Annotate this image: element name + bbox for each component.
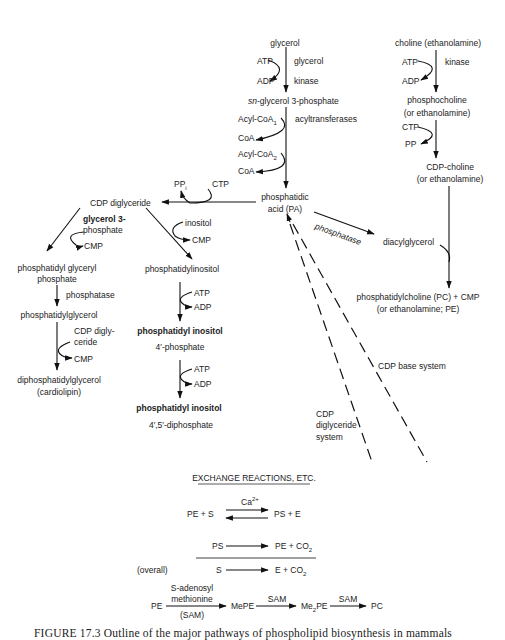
phosphatidylinositol-node: phosphatidylinositol [145,264,219,274]
atp-cofactor: ATP [257,56,273,66]
g3p-label: -glycerol 3-phosphate [257,96,339,106]
co2-sub: 2 [309,547,312,553]
glycerol-3-phosphate-line1: glycerol 3- [83,214,126,224]
cmp-1: CMP [84,241,103,251]
cdp-diglyceride-system-line3: system [316,432,343,442]
choline-pp: PP [405,139,416,149]
phosphatidylcholine-line1: phosphatidylcholine (PC) + CMP [356,292,479,302]
inositol-cofactor: inositol [185,218,211,228]
acyltransferases-label: acyltransferases [295,114,357,124]
acyl-coa-2-label: Acyl-CoA [238,149,273,159]
glycerol-3-phosphate-line2: phosphate [83,225,123,235]
acyl-coa-2: Acyl-CoA2 [238,149,277,163]
pip-line1: phosphatidyl inositol [137,326,222,336]
adp-cofactor: ADP [257,76,274,86]
cdp-diglyceride-in-line2: ceride [74,337,97,347]
figure-caption: FIGURE 17.3 Outline of the major pathway… [34,627,452,639]
calcium-charge: 2+ [252,496,259,502]
co2-sub-2: 2 [303,571,306,577]
mepe-node: MePE [231,601,254,611]
methylation-end-pc: PC [371,601,383,611]
sam-label-3: SAM [339,594,357,604]
choline-kinase-label: kinase [445,57,470,67]
cardiolipin-line1: diphosphatidylglycerol [17,375,101,385]
acyl-coa-1: Acyl-CoA1 [238,114,277,128]
ppi-sub: i [185,185,186,191]
cardiolipin-line2: (cardiolipin) [37,387,81,397]
inositol-cmp: CMP [192,235,211,245]
phospholipid-pathway-diagram: glycerol ATP ADP glycerol kinase sn-glyc… [0,0,505,640]
phosphocholine-line1: phosphocholine [407,95,467,105]
glycerol-node: glycerol [270,38,299,48]
choline-ctp: CTP [402,122,419,132]
pip2-line1: phosphatidyl inositol [136,403,221,413]
cdp-choline-line2: (or ethanolamine) [417,174,484,184]
pa-ppi: PPi [174,179,187,193]
cdp-diglyceride-system-line2: diglyceride [316,420,357,430]
coa-2: CoA [238,166,255,176]
sam-label-2: SAM [268,594,286,604]
pa-ctp: CTP [212,179,229,189]
sam-label-line1: S-adenosyl [171,583,214,593]
cdp-diglyceride-system-line1: CDP [316,409,334,419]
pip-line2: 4′-phosphate [156,342,205,352]
cdp-diglyceride-node: CDP diglyceride [90,198,151,208]
pe-co2-label: PE + CO [275,541,309,551]
cdp-diglyceride-in-line1: CDP digly- [74,326,114,336]
pi-adp: ADP [194,302,211,312]
decarboxylation-left: PS [212,541,223,551]
pip2-line2: 4′,5′-diphosphate [149,420,213,430]
ppi-label: PP [174,179,185,189]
choline-node: choline (ethanolamine) [395,38,481,48]
me-prefix: Me [301,601,313,611]
sn-prefix: sn [248,96,257,106]
me2pe-node: Me2PE [301,601,328,615]
choline-atp: ATP [402,57,418,67]
decarboxylation-right: PE + CO2 [275,541,312,555]
exchange-reactions-title: EXCHANGE REACTIONS, ETC. [192,473,316,483]
cdp-base-system-label: CDP base system [378,361,446,371]
phosphatidylcholine-line2: (or ethanolamine; PE) [377,304,460,314]
acyl-coa-1-sub: 1 [273,120,276,126]
phosphocholine-line2: (or ethanolamine) [404,108,471,118]
calcium-cofactor: Ca2+ [241,494,259,507]
overall-right: E + CO2 [275,565,306,579]
pgp-line2: phosphate [37,274,77,284]
e-co2-label: E + CO [275,565,303,575]
exchange-eq1-left: PE + S [187,509,214,519]
pi-atp: ATP [194,288,210,298]
choline-adp: ADP [402,76,419,86]
sn-glycerol-3-phosphate-node: sn-glycerol 3-phosphate [248,96,339,106]
phosphatase-2-label: phosphatase [66,290,115,300]
methylation-start-pe: PE [151,601,162,611]
acyl-coa-1-label: Acyl-CoA [238,114,273,124]
pip-atp: ATP [194,364,210,374]
pip-adp: ADP [194,379,211,389]
sam-label-line3: (SAM) [180,610,204,620]
overall-left: S [216,565,222,575]
diacylglycerol-node: diacylglycerol [383,237,434,247]
phosphatidylglycerol-node: phosphatidylglycerol [20,310,97,320]
overall-label: (overall) [137,565,168,575]
exchange-eq1-right: PS + E [274,509,301,519]
pgp-line1: phosphatidyl glyceryl [18,263,97,273]
coa-1: CoA [238,133,255,143]
glycerol-kinase-label-2: kinase [294,76,319,86]
acyl-coa-2-sub: 2 [273,155,276,161]
sam-label-line2: methionine [171,594,213,604]
glycerol-kinase-label-1: glycerol [294,56,323,66]
pe-suffix: PE [316,601,327,611]
phosphatidic-acid-line2: acid (PA) [268,204,302,214]
phosphatidic-acid-line1: phosphatidic [261,192,309,202]
cmp-3: CMP [74,354,93,364]
calcium-label: Ca [241,497,252,507]
cdp-choline-line1: CDP-choline [426,162,474,172]
